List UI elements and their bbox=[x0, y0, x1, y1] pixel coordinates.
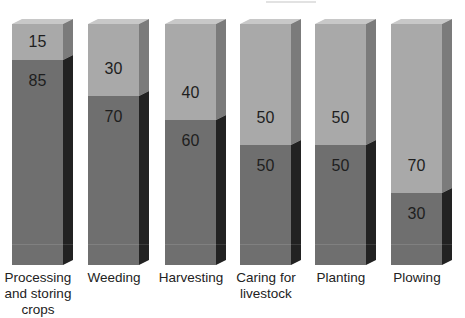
bar-side-light bbox=[139, 19, 149, 96]
bar-3: 5050Caring forlivestock bbox=[240, 0, 302, 318]
bar-segment-dark bbox=[391, 193, 442, 265]
value-label-light: 15 bbox=[12, 33, 63, 51]
bar-side-dark bbox=[139, 91, 149, 265]
bar-side-light bbox=[291, 19, 301, 145]
bar-side-dark bbox=[216, 115, 226, 265]
bar-1: 3070Weeding bbox=[88, 0, 150, 318]
value-label-dark: 60 bbox=[165, 132, 216, 150]
value-label-light: 40 bbox=[165, 84, 216, 102]
category-label-line: Caring for bbox=[226, 270, 306, 286]
scan-artifact-line bbox=[0, 244, 465, 245]
value-label-dark: 85 bbox=[12, 72, 63, 90]
category-label: Planting bbox=[301, 270, 381, 286]
bar-2: 4060Harvesting bbox=[165, 0, 227, 318]
value-label-dark: 50 bbox=[240, 157, 291, 175]
category-label: Plowing bbox=[377, 270, 457, 286]
bar-side-dark bbox=[291, 140, 301, 265]
category-label-line: and storing bbox=[0, 286, 78, 302]
category-label-line: Weeding bbox=[74, 270, 154, 286]
category-label: Caring forlivestock bbox=[226, 270, 306, 302]
category-label: Harvesting bbox=[151, 270, 231, 286]
category-label: Weeding bbox=[74, 270, 154, 286]
bar-side-dark bbox=[442, 188, 452, 265]
bar-side-dark bbox=[63, 55, 73, 265]
value-label-dark: 30 bbox=[391, 205, 442, 223]
value-label-light: 70 bbox=[391, 157, 442, 175]
value-label-dark: 70 bbox=[88, 108, 139, 126]
category-label-line: Processing bbox=[0, 270, 78, 286]
bar-segment-light bbox=[165, 24, 216, 120]
value-label-light: 50 bbox=[315, 109, 366, 127]
bar-side-light bbox=[63, 19, 73, 60]
value-label-light: 30 bbox=[88, 60, 139, 78]
category-label-line: Plowing bbox=[377, 270, 457, 286]
bar-5: 7030Plowing bbox=[391, 0, 453, 318]
category-label-line: Planting bbox=[301, 270, 381, 286]
bar-segment-dark bbox=[12, 60, 63, 265]
category-label-line: livestock bbox=[226, 286, 306, 302]
bar-side-light bbox=[366, 19, 376, 145]
category-label-line: crops bbox=[0, 302, 78, 318]
bar-0: 1585Processingand storingcrops bbox=[12, 0, 74, 318]
value-label-dark: 50 bbox=[315, 157, 366, 175]
bar-side-dark bbox=[366, 140, 376, 265]
category-label-line: Harvesting bbox=[151, 270, 231, 286]
value-label-light: 50 bbox=[240, 109, 291, 127]
bar-4: 5050Planting bbox=[315, 0, 377, 318]
bar-side-light bbox=[442, 19, 452, 193]
category-label: Processingand storingcrops bbox=[0, 270, 78, 318]
bar-side-light bbox=[216, 19, 226, 120]
